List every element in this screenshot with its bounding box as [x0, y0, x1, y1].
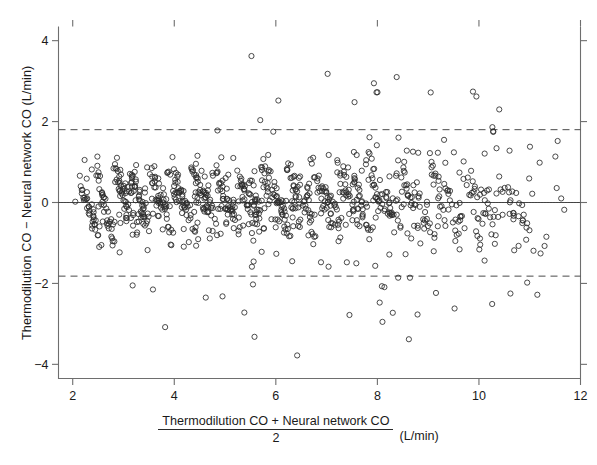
data-point	[195, 153, 200, 158]
data-point	[399, 189, 404, 194]
data-point	[412, 190, 417, 195]
data-point	[380, 319, 385, 324]
data-point	[435, 150, 440, 155]
data-point	[181, 244, 186, 249]
data-point	[433, 290, 438, 295]
x-tick-label-4: 10	[472, 389, 486, 403]
data-point	[117, 212, 122, 217]
data-point	[451, 150, 456, 155]
data-point	[405, 231, 410, 236]
data-point	[326, 217, 331, 222]
data-point	[251, 259, 256, 264]
data-point	[373, 215, 378, 220]
data-point	[542, 243, 547, 248]
data-point	[527, 176, 532, 181]
data-point	[469, 168, 474, 173]
data-point	[394, 74, 399, 79]
data-point	[224, 186, 229, 191]
data-point	[341, 164, 346, 169]
data-point	[290, 215, 295, 220]
data-point	[335, 222, 340, 227]
data-point	[492, 241, 497, 246]
data-point	[206, 228, 211, 233]
data-point	[257, 229, 262, 234]
data-point	[291, 224, 296, 229]
data-point	[341, 196, 346, 201]
data-point	[470, 179, 475, 184]
data-point	[431, 182, 436, 187]
data-point	[251, 183, 256, 188]
data-point	[343, 182, 348, 187]
data-point	[235, 168, 240, 173]
x-tick-label-2: 6	[272, 389, 279, 403]
data-point	[95, 163, 100, 168]
data-point	[146, 229, 151, 234]
data-point	[251, 238, 256, 243]
data-point	[209, 213, 214, 218]
data-point	[345, 165, 350, 170]
data-point	[505, 185, 510, 190]
data-point	[427, 151, 432, 156]
data-point	[492, 207, 497, 212]
data-point	[297, 224, 302, 229]
data-point	[84, 176, 89, 181]
data-point	[196, 237, 201, 242]
data-point	[215, 128, 220, 133]
data-point	[527, 144, 532, 149]
data-point	[422, 226, 427, 231]
data-point	[462, 226, 467, 231]
data-point	[443, 160, 448, 165]
data-point	[117, 250, 122, 255]
data-point	[555, 138, 560, 143]
data-point	[364, 204, 369, 209]
data-point	[231, 155, 236, 160]
x-axis-label-numerator: Thermodilution CO + Neural network CO	[158, 414, 393, 429]
plot-canvas: 24681012−4−2024	[0, 0, 597, 465]
data-point	[538, 251, 543, 256]
data-point	[521, 212, 526, 217]
data-point	[150, 287, 155, 292]
data-point	[259, 249, 264, 254]
data-point	[377, 300, 382, 305]
data-point	[474, 94, 479, 99]
bland-altman-figure: 24681012−4−2024 Thermodilution CO − Neur…	[0, 0, 597, 465]
data-point	[387, 252, 392, 257]
data-point	[414, 180, 419, 185]
data-point	[512, 248, 517, 253]
data-point	[82, 157, 87, 162]
data-point	[156, 176, 161, 181]
data-point	[446, 207, 451, 212]
data-point	[170, 154, 175, 159]
x-axis-label: Thermodilution CO + Neural network CO 2 …	[0, 414, 597, 445]
data-point	[214, 163, 219, 168]
data-point	[452, 306, 457, 311]
data-point	[351, 149, 356, 154]
data-point	[249, 53, 254, 58]
data-point	[199, 168, 204, 173]
data-point	[194, 243, 199, 248]
data-point	[145, 247, 150, 252]
data-point	[494, 146, 499, 151]
data-point	[134, 162, 139, 167]
data-point	[77, 173, 82, 178]
data-point	[354, 152, 359, 157]
data-point	[335, 170, 340, 175]
data-point	[406, 337, 411, 342]
data-point	[318, 260, 323, 265]
data-point	[416, 150, 421, 155]
data-point	[274, 251, 279, 256]
data-point	[506, 190, 511, 195]
data-point	[530, 191, 535, 196]
data-point	[441, 137, 446, 142]
data-point	[537, 160, 542, 165]
data-point	[219, 155, 224, 160]
data-point	[220, 294, 225, 299]
data-point	[403, 252, 408, 257]
data-point	[163, 325, 168, 330]
data-point	[559, 196, 564, 201]
data-point	[516, 243, 521, 248]
data-point	[95, 154, 100, 159]
data-point	[352, 100, 357, 105]
y-tick-label-3: −2	[34, 277, 48, 291]
data-point	[525, 280, 530, 285]
